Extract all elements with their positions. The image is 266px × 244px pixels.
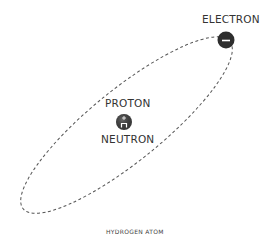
nucleus [116, 114, 132, 130]
electron-label: ELECTRON [202, 13, 260, 25]
neutron-label: NEUTRON [101, 133, 154, 145]
proton-label: PROTON [105, 97, 151, 109]
atom-diagram [0, 0, 266, 244]
electron [218, 32, 235, 49]
diagram-caption: Hydrogen atom [106, 228, 164, 235]
